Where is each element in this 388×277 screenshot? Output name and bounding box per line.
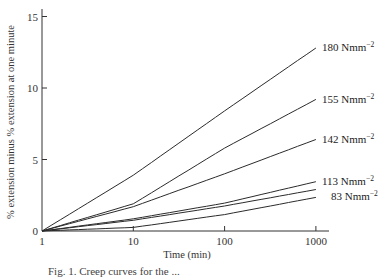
y-ticks: 051015 <box>27 11 47 238</box>
y-tick-label: 10 <box>27 82 39 94</box>
x-tick-label: 10 <box>128 235 140 247</box>
x-tick-label: 1 <box>39 235 45 247</box>
series-label: 180 Nmm−2 <box>322 40 375 53</box>
series-label: 142 Nmm−2 <box>322 132 375 145</box>
figure-caption: Fig. 1. Creep curves for the ... <box>48 265 180 277</box>
x-tick-label: 100 <box>216 235 233 247</box>
x-tick-label: 1000 <box>305 235 328 247</box>
y-tick-label: 5 <box>33 154 39 166</box>
series-line <box>42 48 316 231</box>
y-tick-label: 15 <box>27 11 39 23</box>
axes <box>42 9 329 231</box>
series-label: 83 Nmm−2 <box>331 189 378 202</box>
series-labels: 180 Nmm−2155 Nmm−2142 Nmm−2113 Nmm−283 N… <box>322 40 378 202</box>
series-lines <box>42 48 316 231</box>
series-line <box>42 140 316 232</box>
x-axis-title: Time (min) <box>163 249 211 261</box>
y-axis-title: % extension minus % extension at one min… <box>5 25 16 219</box>
series-label: 155 Nmm−2 <box>322 92 375 105</box>
series-line <box>42 190 316 232</box>
y-tick-label: 0 <box>33 225 39 237</box>
series-label: 113 Nmm−2 <box>322 174 374 187</box>
